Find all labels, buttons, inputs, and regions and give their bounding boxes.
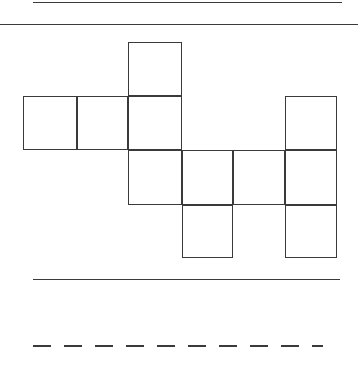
square-r2c4: [233, 150, 285, 205]
square-r3c3: [182, 205, 233, 258]
cube-net-figure: [0, 0, 358, 370]
square-r2c2: [128, 150, 182, 205]
square-r1c1: [77, 96, 128, 150]
square-r2c5: [285, 150, 337, 205]
square-r1c5: [285, 96, 337, 150]
square-r3c5: [285, 205, 337, 258]
square-r2c3: [182, 150, 233, 205]
page-canvas: [0, 0, 358, 370]
square-r0c2: [128, 42, 182, 96]
square-r1c0: [23, 96, 77, 150]
square-r1c2: [128, 96, 182, 150]
